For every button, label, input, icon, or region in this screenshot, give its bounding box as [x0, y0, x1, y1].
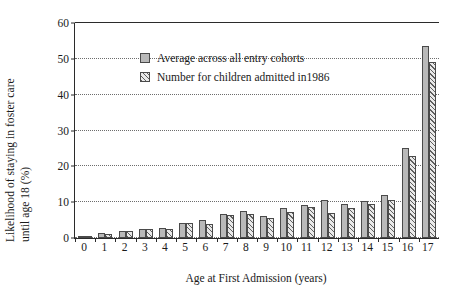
- x-tick-label-15: 15: [377, 241, 397, 253]
- x-tick-label-11: 11: [296, 241, 316, 253]
- x-tick-label-5: 5: [175, 241, 195, 253]
- bar-s2-age-4: [166, 229, 173, 238]
- x-axis-tick-labels: 01234567891011121314151617: [74, 241, 438, 253]
- bar-s2-age-2: [126, 231, 133, 238]
- y-tick-label-10: 10: [58, 196, 70, 208]
- bar-s1-age-8: [240, 211, 247, 238]
- bar-s1-age-6: [199, 220, 206, 238]
- bar-group-age-15: [378, 23, 398, 238]
- bar-s2-age-1: [105, 234, 112, 238]
- bar-s1-age-1: [98, 233, 105, 238]
- y-tick-label-0: 0: [63, 232, 69, 244]
- y-tick-label-30: 30: [58, 125, 70, 137]
- y-axis-title: Likelihood of staying in foster care unt…: [0, 0, 48, 260]
- legend-item-2: Number for children admitted in1986: [140, 71, 329, 83]
- x-tick-label-7: 7: [216, 241, 236, 253]
- bar-s1-age-7: [220, 214, 227, 238]
- x-tick-label-3: 3: [135, 241, 155, 253]
- bar-s1-age-2: [119, 231, 126, 238]
- bar-group-age-0: [75, 23, 95, 238]
- bar-s1-age-15: [381, 195, 388, 238]
- bar-s1-age-16: [402, 148, 409, 238]
- bar-s2-age-14: [368, 204, 375, 238]
- bar-s1-age-5: [179, 223, 186, 238]
- bar-group-age-16: [399, 23, 419, 238]
- x-tick-label-6: 6: [195, 241, 215, 253]
- y-tick-label-50: 50: [58, 53, 70, 65]
- x-tick-label-12: 12: [317, 241, 337, 253]
- bar-s2-age-17: [429, 62, 436, 238]
- y-tick-label-20: 20: [58, 160, 70, 172]
- y-axis-title-line-2: until age 18 (%): [19, 32, 31, 242]
- bar-s2-age-6: [206, 224, 213, 238]
- bar-s2-age-0: [85, 236, 92, 238]
- bar-group-age-1: [95, 23, 115, 238]
- x-tick-label-0: 0: [74, 241, 94, 253]
- bar-group-age-17: [419, 23, 439, 238]
- x-axis-title: Age at First Admission (years): [74, 272, 438, 284]
- x-tick-label-17: 17: [418, 241, 438, 253]
- y-axis-title-line-1: Likelihood of staying in foster care: [4, 32, 16, 242]
- bar-s2-age-12: [328, 213, 335, 238]
- bar-s2-age-16: [409, 156, 416, 238]
- chart-figure: Likelihood of staying in foster care unt…: [0, 0, 461, 302]
- legend-label-1: Average across all entry cohorts: [157, 52, 304, 64]
- bar-group-age-13: [338, 23, 358, 238]
- bar-s2-age-11: [308, 207, 315, 238]
- bar-s2-age-5: [186, 223, 193, 238]
- chart-legend: Average across all entry cohortsNumber f…: [140, 52, 329, 83]
- bar-s1-age-3: [139, 229, 146, 238]
- bar-s1-age-4: [159, 228, 166, 238]
- x-tick-label-16: 16: [398, 241, 418, 253]
- bar-s2-age-10: [287, 212, 294, 238]
- x-tick-label-1: 1: [94, 241, 114, 253]
- x-tick-label-8: 8: [236, 241, 256, 253]
- bar-s1-age-10: [280, 208, 287, 238]
- legend-label-2: Number for children admitted in1986: [157, 71, 329, 83]
- bar-group-age-14: [358, 23, 378, 238]
- bar-s1-age-11: [301, 205, 308, 238]
- bar-s1-age-14: [361, 201, 368, 238]
- bar-s2-age-3: [146, 229, 153, 238]
- x-tick-label-2: 2: [114, 241, 134, 253]
- legend-item-1: Average across all entry cohorts: [140, 52, 329, 64]
- bar-s2-age-8: [247, 214, 254, 238]
- x-tick-label-14: 14: [357, 241, 377, 253]
- x-tick-label-4: 4: [155, 241, 175, 253]
- x-tick-label-9: 9: [256, 241, 276, 253]
- bar-s1-age-13: [341, 204, 348, 238]
- legend-swatch-2: [140, 72, 150, 82]
- bar-s1-age-0: [78, 236, 85, 238]
- bar-s2-age-15: [388, 200, 395, 238]
- bar-s2-age-9: [267, 218, 274, 238]
- bar-s2-age-13: [348, 208, 355, 238]
- y-tick-label-60: 60: [58, 17, 70, 29]
- bar-group-age-2: [115, 23, 135, 238]
- bar-s1-age-17: [422, 46, 429, 238]
- bar-s1-age-9: [260, 216, 267, 238]
- x-tick-label-13: 13: [337, 241, 357, 253]
- bar-s2-age-7: [227, 215, 234, 238]
- legend-swatch-1: [140, 53, 150, 63]
- bar-s1-age-12: [321, 200, 328, 238]
- y-tick-label-40: 40: [58, 89, 70, 101]
- x-tick-label-10: 10: [276, 241, 296, 253]
